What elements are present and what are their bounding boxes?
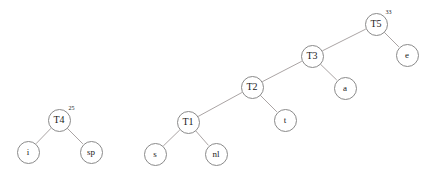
tree-node-t5[interactable]: T5: [365, 13, 388, 36]
tree-edge: [196, 131, 209, 146]
tree-node-label: s: [153, 150, 157, 159]
tree-node-e[interactable]: e: [396, 44, 419, 67]
tree-node-t4[interactable]: T4: [48, 109, 71, 132]
tree-node-label: e: [405, 51, 409, 60]
tree-node-i[interactable]: i: [17, 141, 40, 164]
tree-edge: [36, 128, 51, 143]
tree-node-t1[interactable]: T1: [177, 111, 200, 134]
tree-node-label: T4: [53, 115, 64, 125]
tree-edge: [163, 130, 179, 146]
tree-edge: [198, 93, 242, 117]
tree-diagram-canvas: T425ispT533eT3aT2tT1snl: [0, 0, 437, 174]
tree-edge: [67, 128, 83, 144]
tree-node-label: T1: [182, 117, 193, 127]
tree-node-label: t: [284, 116, 287, 125]
tree-node-t[interactable]: t: [274, 109, 297, 132]
tree-node-label: T2: [246, 82, 257, 92]
tree-node-sp[interactable]: sp: [80, 141, 103, 164]
tree-node-label: T5: [370, 19, 381, 29]
tree-node-superscript-t4: 25: [69, 105, 75, 111]
tree-node-label: T3: [306, 51, 317, 61]
tree-node-t2[interactable]: T2: [241, 76, 264, 99]
tree-node-a[interactable]: a: [334, 77, 357, 100]
tree-node-label: sp: [87, 148, 95, 157]
tree-node-t3[interactable]: T3: [301, 45, 324, 68]
tree-edge: [322, 29, 365, 51]
tree-node-label: i: [27, 148, 30, 157]
tree-edge: [320, 64, 336, 80]
tree-edge: [262, 61, 302, 81]
tree-node-label: nl: [212, 150, 219, 159]
tree-edge: [384, 32, 399, 47]
tree-node-nl[interactable]: nl: [205, 143, 228, 166]
tree-edge: [260, 95, 277, 112]
tree-node-s[interactable]: s: [144, 143, 167, 166]
tree-node-label: a: [343, 84, 347, 93]
tree-node-superscript-t5: 33: [386, 9, 392, 15]
